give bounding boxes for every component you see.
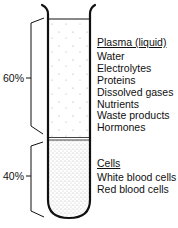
plasma-item: Waste products [97, 109, 170, 121]
plasma-layer [49, 19, 89, 139]
bracket-cells [31, 142, 44, 217]
bracket-plasma [31, 18, 44, 134]
cells-percent: 40% [3, 170, 24, 182]
cells-layer [49, 140, 89, 216]
cells-item: White blood cells [97, 171, 176, 183]
plasma-item: Proteins [97, 74, 136, 86]
cells-item: Red blood cells [97, 183, 169, 195]
plasma-item: Dissolved gases [97, 86, 173, 98]
cells-heading: Cells [97, 157, 120, 169]
plasma-heading: Plasma (liquid) [97, 36, 166, 48]
plasma-percent: 60% [3, 72, 24, 84]
plasma-item: Electrolytes [97, 62, 151, 74]
plasma-item: Water [97, 50, 125, 62]
plasma-item: Hormones [97, 121, 145, 133]
